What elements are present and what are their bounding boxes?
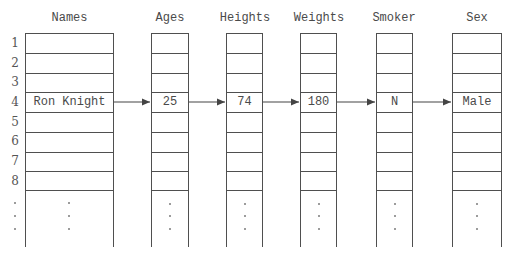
arrow-connectors [0, 0, 515, 262]
parallel-arrays-diagram: 1 2 3 4 5 6 7 8 Names Ron Knight Ages 25 [0, 0, 515, 262]
